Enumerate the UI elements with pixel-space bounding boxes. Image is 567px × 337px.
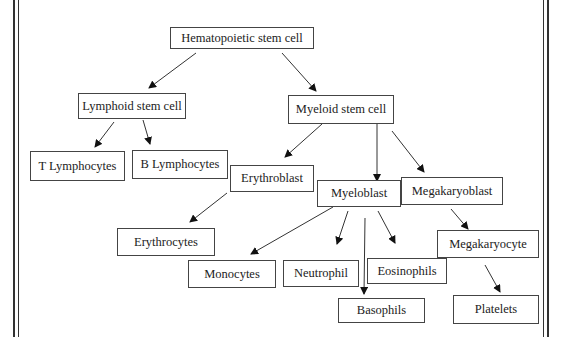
node-b-lymphocytes: B Lymphocytes [132, 150, 228, 179]
node-erythroblast: Erythroblast [230, 165, 314, 192]
node-myeloblast: Myeloblast [317, 180, 401, 207]
node-t-lymphocytes: T Lymphocytes [30, 151, 125, 181]
node-neutrophil: Neutrophil [283, 260, 359, 287]
node-platelets: Platelets [453, 295, 539, 324]
node-hematopoietic-stem-cell: Hematopoietic stem cell [170, 27, 314, 49]
node-monocytes: Monocytes [188, 260, 276, 288]
node-eosinophils: Eosinophils [367, 258, 447, 284]
node-myeloid-stem-cell: Myeloid stem cell [288, 95, 394, 124]
node-megakaryocyte: Megakaryocyte [437, 230, 539, 258]
node-erythrocytes: Erythrocytes [117, 228, 215, 256]
node-lymphoid-stem-cell: Lymphoid stem cell [78, 93, 186, 119]
node-basophils: Basophils [338, 298, 425, 323]
node-megakaryoblast: Megakaryoblast [401, 177, 503, 205]
